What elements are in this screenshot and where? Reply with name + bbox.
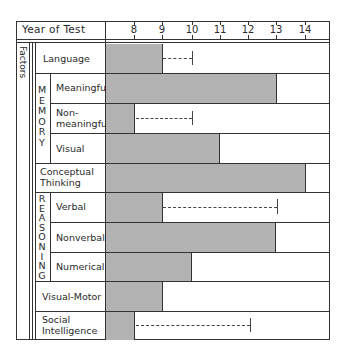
- row-label-language: Language: [43, 53, 90, 64]
- factors-col-border-2: [32, 42, 33, 340]
- row-label-nonverbal: Nonverbal: [56, 232, 105, 243]
- row-label-nonmeaningful-2: meaningful: [56, 118, 110, 129]
- row-label-visual: Visual: [56, 143, 84, 154]
- dash-social-intelligence: [136, 325, 250, 326]
- bar-visual: [106, 134, 220, 163]
- tick-mark: [305, 35, 306, 39]
- bar-meaningful: [106, 74, 277, 103]
- bar-numerical: [106, 253, 192, 281]
- tick-mark: [276, 21, 277, 25]
- tick-mark: [220, 21, 221, 25]
- tick-11: 11: [214, 24, 227, 35]
- factors-col-border: [29, 42, 30, 340]
- tick-mark: [134, 35, 135, 39]
- row-label-visual-motor: Visual-Motor: [42, 291, 101, 302]
- row-label-nonmeaningful-1: Non-: [56, 107, 78, 118]
- row-label-conceptual-2: Thinking: [40, 177, 81, 188]
- tick-mark: [162, 35, 163, 39]
- tick-mark: [248, 21, 249, 25]
- row-label-numerical: Numerical: [56, 261, 104, 272]
- row-label-conceptual-1: Conceptual: [40, 166, 94, 177]
- factors-label: Factors: [18, 46, 28, 78]
- dash-end-nonmeaningful: [192, 111, 193, 125]
- row-divider: [35, 192, 330, 193]
- tick-mark: [192, 21, 193, 25]
- bar-social-intelligence: [106, 312, 135, 340]
- tick-mark: [220, 35, 221, 39]
- row-divider: [35, 281, 330, 282]
- tick-12: 12: [242, 24, 255, 35]
- row-divider: [50, 103, 330, 104]
- bar-nonmeaningful: [106, 104, 135, 133]
- reasoning-group-label: R E A S O N I N G: [36, 194, 48, 280]
- dash-language: [163, 58, 192, 59]
- label-col-border: [35, 42, 36, 340]
- tick-14: 14: [299, 24, 312, 35]
- row-label-social-2: Intelligence: [42, 325, 97, 336]
- tick-mark: [276, 35, 277, 39]
- header-label: Year of Test: [22, 24, 85, 35]
- row-divider: [35, 311, 330, 312]
- tick-9: 9: [159, 24, 165, 35]
- dash-end-language: [192, 51, 193, 65]
- reasoning-col-border: [50, 192, 51, 281]
- dash-end-verbal: [277, 199, 278, 214]
- tick-mark: [248, 35, 249, 39]
- tick-8: 8: [131, 24, 137, 35]
- bar-language: [106, 44, 163, 73]
- tick-13: 13: [270, 24, 283, 35]
- row-label-meaningful: Meaningful: [56, 82, 109, 93]
- tick-mark: [162, 21, 163, 25]
- bar-conceptual-thinking: [106, 164, 306, 192]
- dash-verbal: [163, 207, 277, 208]
- bar-visual-motor: [106, 282, 163, 311]
- bar-nonverbal: [106, 223, 276, 252]
- tick-mark: [305, 21, 306, 25]
- dash-nonmeaningful: [136, 118, 192, 119]
- tick-mark: [192, 35, 193, 39]
- memory-group-label: M E M O R Y: [36, 85, 48, 149]
- bar-verbal: [106, 193, 163, 222]
- row-label-verbal: Verbal: [56, 201, 86, 212]
- header-divider: [16, 39, 330, 40]
- dash-end-social-intelligence: [250, 318, 251, 332]
- tick-10: 10: [186, 24, 199, 35]
- header-divider-2: [16, 42, 330, 43]
- row-label-social-1: Social: [42, 314, 70, 325]
- tick-mark: [134, 21, 135, 25]
- memory-col-border: [50, 73, 51, 163]
